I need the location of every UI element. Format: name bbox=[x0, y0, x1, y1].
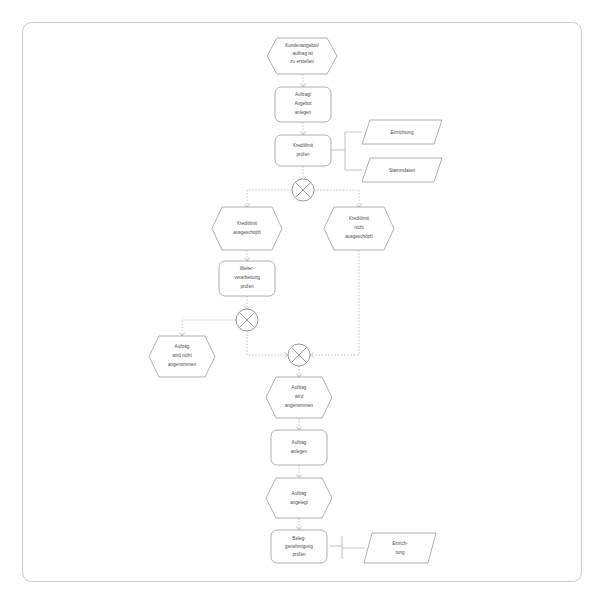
node-label-line: angenommen bbox=[168, 362, 197, 367]
organization-einrichtung[interactable]: Einrichtung bbox=[362, 120, 442, 144]
event-auftrag-wird-nicht-angenommen[interactable]: Auftrag wird nicht angenommen bbox=[149, 336, 215, 377]
node-label-line: Beleg- bbox=[292, 536, 306, 541]
node-label-line: -auftrag ist bbox=[291, 51, 313, 56]
node-label-line: Kreditlimit bbox=[293, 143, 314, 148]
xor-connector-join-auftrag[interactable] bbox=[288, 344, 310, 366]
node-label-line: ausgeschöpft bbox=[345, 234, 373, 239]
xor-connector-split-weiterverarbeitung[interactable] bbox=[236, 309, 258, 331]
node-label-line: Kreditlimit bbox=[349, 216, 370, 221]
node-label-line: prüfen bbox=[296, 152, 309, 157]
node-label-line: Kreditlimit bbox=[237, 221, 258, 226]
event-kreditlimit-ausgeschoepft[interactable]: Kreditlimit ausgeschöpft bbox=[212, 207, 282, 250]
node-label-line: zu erstellen bbox=[290, 59, 314, 64]
node-label-line: Auftrag/ bbox=[295, 92, 312, 97]
rounded-rect-function-icon bbox=[271, 430, 327, 465]
organization-einrichtung-beleg[interactable]: Einrich- tung bbox=[364, 533, 436, 563]
node-label-line: Auftrag bbox=[175, 344, 190, 349]
function-auftrag-anlegen[interactable]: Auftrag anlegen bbox=[271, 430, 327, 465]
event-auftrag-angelegt[interactable]: Auftrag angelegt bbox=[266, 478, 332, 518]
node-label-line: tung bbox=[396, 550, 405, 555]
rounded-rect-function-icon bbox=[275, 135, 331, 166]
node-label-line: anlegen bbox=[295, 110, 312, 115]
node-label-line: angelegt bbox=[290, 500, 308, 505]
node-label-line: wird nicht bbox=[172, 353, 192, 358]
node-label-line: Auftrag bbox=[292, 491, 307, 496]
organization-stammdaten[interactable]: Stammdaten bbox=[362, 158, 442, 182]
event-kreditlimit-nicht-ausgeschoepft[interactable]: Kreditlimit nicht ausgeschöpft bbox=[324, 207, 394, 250]
node-label-line: ausgeschöpft bbox=[233, 230, 261, 235]
node-label-line: Einrich- bbox=[392, 541, 408, 546]
hexagon-event-icon bbox=[266, 478, 332, 518]
node-label-line: Angebot bbox=[294, 101, 312, 106]
node-label-line: genehmigung bbox=[285, 544, 313, 549]
node-label-line: nicht bbox=[354, 225, 364, 230]
node-label-line: prüfen bbox=[240, 284, 253, 289]
node-label-line: Kundenangebot/ bbox=[285, 43, 319, 48]
node-label-line: prüfen bbox=[292, 552, 305, 557]
node-label-line: Stammdaten bbox=[389, 168, 415, 173]
epc-diagram: Kundenangebot/ -auftrag ist zu erstellen… bbox=[0, 0, 599, 601]
node-label-line: verarbeitung bbox=[234, 275, 260, 280]
diagram-canvas: Kundenangebot/ -auftrag ist zu erstellen… bbox=[0, 0, 599, 601]
event-kundenangebot-auftrag-ist-zu-erstellen[interactable]: Kundenangebot/ -auftrag ist zu erstellen bbox=[267, 38, 337, 74]
node-label-line: Auftrag bbox=[292, 385, 307, 390]
function-kreditlimit-pruefen[interactable]: Kreditlimit prüfen bbox=[275, 135, 331, 166]
hexagon-event-icon bbox=[212, 207, 282, 250]
node-label-line: angenommen bbox=[285, 403, 314, 408]
node-label-line: anlegen bbox=[291, 449, 308, 454]
node-label-line: Weiter- bbox=[240, 266, 255, 271]
xor-connector-split-kreditlimit[interactable] bbox=[292, 179, 314, 201]
node-label-line: Auftrag bbox=[292, 440, 307, 445]
parallelogram-unit-icon bbox=[364, 533, 436, 563]
function-weiterverarbeitung-pruefen[interactable]: Weiter- verarbeitung prüfen bbox=[219, 261, 275, 296]
node-label-line: Einrichtung bbox=[391, 130, 414, 135]
node-label-line: wird bbox=[295, 394, 304, 399]
function-beleggenehmigung-pruefen[interactable]: Beleg- genehmigung prüfen bbox=[271, 530, 327, 563]
event-auftrag-wird-angenommen[interactable]: Auftrag wird angenommen bbox=[266, 377, 332, 418]
function-auftrag-angebot-anlegen[interactable]: Auftrag/ Angebot anlegen bbox=[275, 87, 331, 122]
